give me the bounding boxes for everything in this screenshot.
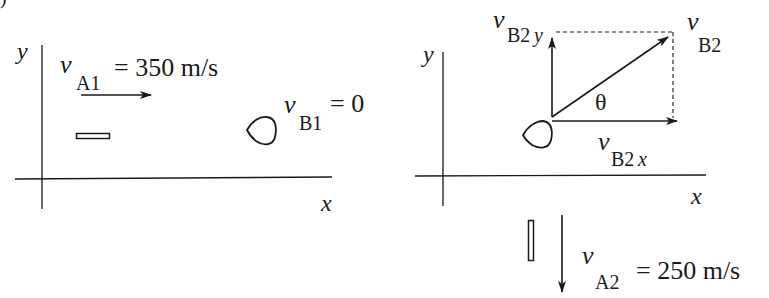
velocity-B2-label: v B2 <box>687 7 721 56</box>
velocity-B2x-symbol: v <box>598 127 610 156</box>
velocity-B2-subscript: B2 <box>698 34 721 56</box>
y-axis-label-before: y <box>15 38 28 64</box>
velocity-A1-subscript: A1 <box>76 72 100 94</box>
velocity-B2x-subscript: B2 <box>611 148 634 170</box>
velocity-B2y-label: v B2 y <box>493 5 543 47</box>
x-axis-label-before: x <box>320 190 332 216</box>
x-axis-label-after: x <box>690 183 702 209</box>
velocity-A1-value: = 350 m/s <box>114 53 218 82</box>
velocity-B2y-axis: y <box>532 24 543 47</box>
bullet-A-icon <box>77 134 110 139</box>
velocity-A1-label: v A1 = 350 m/s <box>60 50 218 94</box>
x-axis-after <box>415 175 706 176</box>
velocity-A2-label: v A2 = 250 m/s <box>582 241 740 293</box>
angle-theta-label: θ <box>595 89 607 115</box>
y-axis-label-after: y <box>421 41 434 67</box>
velocity-A2-subscript: A2 <box>595 271 619 293</box>
panel-after-collision: y x θ v B2 y v B2 v B2 x v <box>415 5 740 293</box>
velocity-B2x-axis: x <box>637 148 647 170</box>
velocity-B1-symbol: v <box>284 90 296 119</box>
velocity-B2-arrow <box>552 37 668 117</box>
partial-panel-label: ) <box>0 0 7 9</box>
puck-B-icon <box>247 117 276 144</box>
velocity-A2-symbol: v <box>582 241 594 270</box>
velocity-B2-symbol: v <box>687 7 699 36</box>
velocity-B1-subscript: B1 <box>299 112 322 134</box>
panel-before-collision: y x v A1 = 350 m/s v B1 = 0 <box>15 38 364 216</box>
velocity-B2y-symbol: v <box>493 5 505 34</box>
puck-B-after-icon <box>523 121 552 148</box>
x-axis-before <box>15 177 332 179</box>
collision-diagram: ) y x v A1 = 350 m/s v B1 = 0 y x <box>0 0 769 298</box>
velocity-B1-label: v B1 = 0 <box>284 89 364 134</box>
bullet-A-after-icon <box>529 221 534 261</box>
velocity-A2-value: = 250 m/s <box>636 256 740 285</box>
velocity-B1-value: = 0 <box>330 89 364 118</box>
velocity-A1-symbol: v <box>60 50 72 79</box>
velocity-B2x-label: v B2 x <box>598 127 647 170</box>
velocity-B2y-subscript: B2 <box>507 24 530 46</box>
